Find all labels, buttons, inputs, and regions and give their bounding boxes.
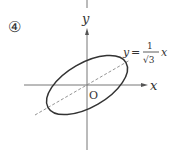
equation-equals: = [131, 46, 140, 59]
y-axis-label: y [81, 11, 90, 26]
equation-lhs: y [122, 46, 130, 59]
y-axis-arrow-icon [85, 28, 89, 35]
equation-var: x [161, 46, 168, 59]
problem-number: ④ [8, 18, 21, 36]
fraction-numerator: 1 [147, 41, 153, 51]
line-equation: y = 1 √3 x [122, 41, 168, 65]
x-axis-arrow-icon [141, 83, 148, 87]
x-axis-label: x [150, 78, 158, 93]
ellipse-diagram: ④ y x O y = 1 √3 x [0, 0, 176, 152]
origin-label: O [89, 89, 98, 102]
dashed-line-y-equals-x-over-root3 [35, 60, 130, 115]
fraction-denominator: √3 [143, 55, 155, 65]
